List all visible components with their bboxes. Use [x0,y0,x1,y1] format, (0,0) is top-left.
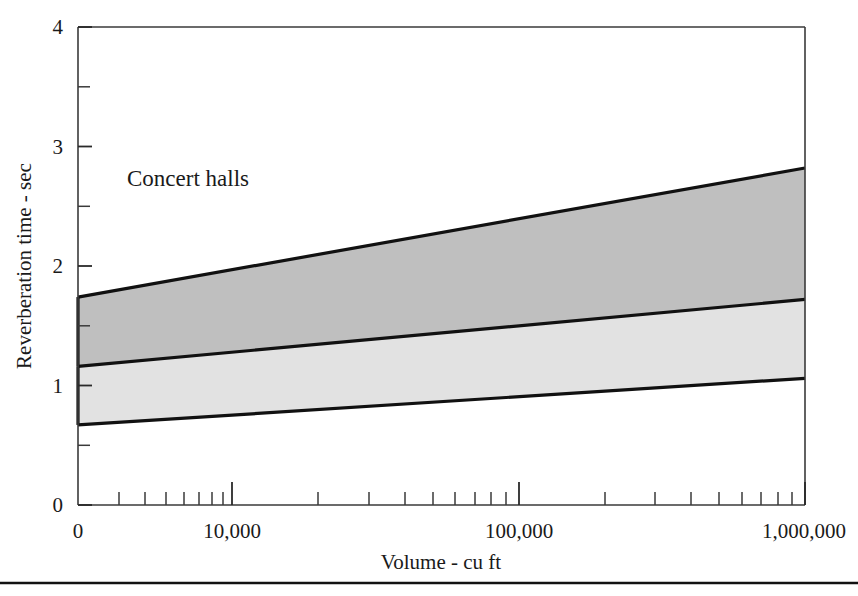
y-tick-label-0: 0 [53,493,64,517]
reverberation-time-vs-volume-chart: 4 3 2 1 0 0 10,000 100,000 1,000,000 Vol… [0,0,858,596]
y-tick-label-2: 2 [53,254,64,278]
concert-halls-annotation: Concert halls [127,166,249,191]
y-axis-title: Reverberation time - sec [12,163,36,369]
x-axis-title: Volume - cu ft [381,550,502,574]
y-tick-label-4: 4 [53,15,64,39]
chart-figure: 4 3 2 1 0 0 10,000 100,000 1,000,000 Vol… [0,0,858,596]
x-tick-label-10000: 10,000 [203,519,261,543]
y-tick-label-1: 1 [53,374,64,398]
x-tick-label-100000: 100,000 [485,519,553,543]
x-tick-label-origin: 0 [73,519,84,543]
x-tick-label-1000000: 1,000,000 [762,519,846,543]
y-tick-label-3: 3 [53,135,64,159]
